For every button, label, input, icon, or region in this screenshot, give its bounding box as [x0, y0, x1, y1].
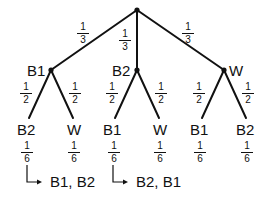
b2-node-dot [134, 67, 139, 72]
denominator: 2 [242, 95, 254, 105]
numerator: 1 [193, 82, 205, 92]
prob-b2-b1: 1 2 [106, 82, 118, 105]
denominator: 6 [241, 154, 253, 164]
w-node-dot [221, 67, 226, 72]
denominator: 6 [21, 154, 33, 164]
node-label-b2: B2 [112, 63, 130, 78]
prob-w-b1: 1 2 [193, 82, 205, 105]
leaf-label-1: B2 [17, 122, 35, 137]
node-label-b1: B1 [27, 63, 45, 78]
root-node-dot [134, 7, 139, 12]
prob-b2-w: 1 2 [155, 82, 167, 105]
denominator: 2 [69, 95, 81, 105]
prob-root-b2: 1 3 [119, 29, 131, 52]
denominator: 6 [68, 154, 80, 164]
arrowhead-1 [37, 180, 42, 185]
joint-prob-1: 1 6 [21, 141, 33, 164]
numerator: 1 [119, 29, 131, 39]
numerator: 1 [69, 82, 81, 92]
outcome-sequence-1: B1, B2 [50, 174, 95, 189]
denominator: 2 [155, 95, 167, 105]
denominator: 3 [77, 35, 89, 45]
outcome-arrow-2 [113, 165, 124, 182]
node-label-w: W [229, 63, 243, 78]
outcome-sequence-2: B2, B1 [136, 174, 181, 189]
b1-node-dot [48, 67, 53, 72]
numerator: 1 [108, 141, 120, 151]
edge-root-w [137, 10, 224, 70]
leaf-label-3: B1 [103, 122, 121, 137]
numerator: 1 [20, 82, 32, 92]
leaf-label-5: B1 [190, 122, 208, 137]
numerator: 1 [77, 22, 89, 32]
prob-b1-w: 1 2 [69, 82, 81, 105]
prob-b1-b2: 1 2 [20, 82, 32, 105]
numerator: 1 [21, 141, 33, 151]
denominator: 2 [193, 95, 205, 105]
denominator: 6 [108, 154, 120, 164]
numerator: 1 [68, 141, 80, 151]
numerator: 1 [154, 141, 166, 151]
denominator: 3 [182, 35, 194, 45]
prob-w-b2: 1 2 [242, 82, 254, 105]
leaf-label-4: W [153, 122, 167, 137]
numerator: 1 [182, 22, 194, 32]
denominator: 2 [106, 95, 118, 105]
denominator: 6 [194, 154, 206, 164]
joint-prob-5: 1 6 [194, 141, 206, 164]
numerator: 1 [155, 82, 167, 92]
prob-root-b1: 1 3 [77, 22, 89, 45]
tree-edges [0, 0, 272, 200]
arrowhead-2 [123, 180, 128, 185]
numerator: 1 [241, 141, 253, 151]
denominator: 6 [154, 154, 166, 164]
outcome-arrow-1 [27, 165, 38, 182]
leaf-label-2: W [67, 122, 81, 137]
prob-root-w: 1 3 [182, 22, 194, 45]
numerator: 1 [106, 82, 118, 92]
joint-prob-3: 1 6 [108, 141, 120, 164]
denominator: 2 [20, 95, 32, 105]
joint-prob-2: 1 6 [68, 141, 80, 164]
numerator: 1 [242, 82, 254, 92]
denominator: 3 [119, 42, 131, 52]
edge-w-b1 [202, 70, 224, 118]
joint-prob-4: 1 6 [154, 141, 166, 164]
leaf-label-6: B2 [236, 122, 254, 137]
joint-prob-6: 1 6 [241, 141, 253, 164]
numerator: 1 [194, 141, 206, 151]
